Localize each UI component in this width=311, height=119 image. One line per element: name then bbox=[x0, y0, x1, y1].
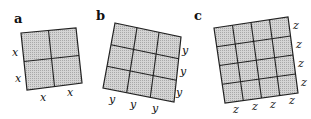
diagram-canvas: x x x x y y y y y y z z z z z z z z bbox=[0, 0, 311, 119]
svg-text:z: z bbox=[251, 100, 258, 113]
svg-text:x: x bbox=[15, 72, 22, 85]
svg-text:z: z bbox=[297, 57, 304, 70]
svg-text:y: y bbox=[181, 44, 189, 57]
panel-c-grid bbox=[214, 17, 298, 103]
svg-text:y: y bbox=[151, 102, 159, 115]
svg-text:y: y bbox=[108, 93, 116, 106]
svg-text:z: z bbox=[300, 76, 307, 89]
svg-text:y: y bbox=[179, 65, 187, 78]
svg-text:z: z bbox=[295, 38, 302, 51]
svg-text:y: y bbox=[175, 86, 183, 99]
svg-text:x: x bbox=[67, 86, 74, 99]
panel-a-grid bbox=[21, 28, 82, 90]
svg-text:x: x bbox=[12, 46, 19, 59]
svg-text:y: y bbox=[129, 98, 137, 111]
svg-text:z: z bbox=[292, 19, 299, 32]
panel-b-grid bbox=[103, 23, 181, 102]
svg-text:z: z bbox=[288, 94, 295, 107]
svg-text:x: x bbox=[40, 91, 47, 104]
svg-text:z: z bbox=[232, 103, 239, 116]
svg-text:z: z bbox=[269, 98, 276, 111]
